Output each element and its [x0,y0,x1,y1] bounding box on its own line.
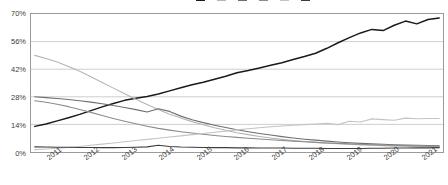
legend-color-swatch [217,0,226,1]
plot-area [30,13,444,153]
legend-entry[interactable] [196,0,208,1]
legend-entry[interactable] [217,0,229,1]
legend-entry[interactable] [259,0,271,1]
y-axis-tick-label: 70% [11,9,26,18]
legend-entry[interactable] [301,0,313,1]
legend-items [196,0,313,1]
y-axis-tick-label: 14% [11,121,26,130]
y-axis-tick-label: 42% [11,65,26,74]
plot-lines [31,14,443,152]
legend-color-swatch [301,0,310,1]
legend-entry[interactable] [280,0,292,1]
legend-color-swatch [259,0,268,1]
legend-color-swatch [238,0,247,1]
x-axis: 2011201220132014201520162017201820192020… [30,153,444,185]
legend-entry[interactable] [238,0,250,1]
y-axis-tick-label: 0% [15,149,26,158]
y-axis-tick-label: 56% [11,37,26,46]
legend-color-swatch [196,0,205,1]
legend-color-swatch [280,0,289,1]
line-chart: 70%56%42%28%14%0% 2011201220132014201520… [0,0,448,185]
chart-legend [0,0,448,7]
series-line-series-1 [35,18,440,126]
y-axis-tick-label: 28% [11,93,26,102]
series-line-series-4 [35,101,440,146]
series-lines [35,18,440,150]
series-line-series-3 [35,97,440,146]
gridlines [31,42,443,125]
y-axis: 70%56%42%28%14%0% [0,0,28,185]
